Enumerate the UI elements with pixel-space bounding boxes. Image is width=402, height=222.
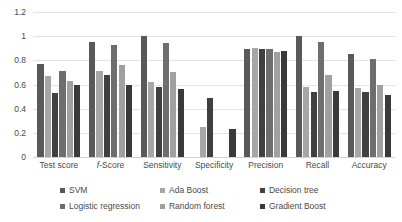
bar-group (240, 12, 292, 157)
bar (59, 71, 65, 157)
bar (281, 51, 287, 157)
bar-slot (178, 12, 184, 157)
bar-slot (45, 12, 51, 157)
bar-slot (311, 12, 317, 157)
bar (67, 81, 73, 157)
bar-slot (104, 12, 110, 157)
bar (111, 45, 117, 157)
x-axis-tick-label: f-Score (85, 159, 137, 173)
bar (296, 36, 302, 157)
bar-slot (377, 12, 383, 157)
bar (303, 87, 309, 157)
bar (348, 54, 354, 157)
x-axis-labels: Test scoref-ScoreSensitivitySpecificityP… (33, 159, 395, 173)
y-axis-tick-label: 0 (21, 153, 26, 162)
bar (259, 49, 265, 157)
bar-slot (370, 12, 376, 157)
bar (377, 85, 383, 158)
bar-slot (89, 12, 95, 157)
bar (52, 93, 58, 157)
y-axis-tick-label: 1 (21, 32, 26, 41)
y-axis-tick-label: 0.6 (14, 80, 26, 89)
bar-slot (252, 12, 258, 157)
bar-slot (52, 12, 58, 157)
x-axis-tick-label: Test score (33, 159, 85, 173)
bar-slot (111, 12, 117, 157)
bar-slot (192, 12, 198, 157)
y-axis-tick-label: 0.2 (14, 129, 26, 138)
legend-item[interactable]: Logistic regression (60, 198, 160, 214)
x-axis-tick-label: Specificity (188, 159, 240, 173)
bar-group (136, 12, 188, 157)
bar (89, 42, 95, 157)
bar-slot (348, 12, 354, 157)
bar (119, 65, 125, 157)
bar-slot (259, 12, 265, 157)
y-axis-tick-label: 0.4 (14, 104, 26, 113)
bar (370, 59, 376, 157)
bar (156, 87, 162, 157)
bar (37, 64, 43, 157)
legend-item[interactable]: Gradient Boost (260, 198, 360, 214)
bar (325, 75, 331, 157)
bar-slot (229, 12, 235, 157)
legend-label: SVM (69, 182, 87, 198)
bar (96, 71, 102, 157)
legend-label: Decision tree (269, 182, 319, 198)
legend-swatch-icon (260, 204, 265, 209)
bar-slot (281, 12, 287, 157)
bar (104, 75, 110, 157)
bar (200, 127, 206, 157)
bar-slot (207, 12, 213, 157)
bar (318, 42, 324, 157)
y-axis-tick-label: 1.2 (14, 8, 26, 17)
bar-slot (148, 12, 154, 157)
bar (126, 85, 132, 158)
bar-group (33, 12, 85, 157)
bar-slot (385, 12, 391, 157)
bar-slot (355, 12, 361, 157)
x-axis-tick-label: Recall (292, 159, 344, 173)
chart-legend: SVMAda BoostDecision treeLogistic regres… (60, 182, 360, 214)
legend-label: Logistic regression (69, 198, 140, 214)
bar-slot (333, 12, 339, 157)
bar (244, 49, 250, 157)
bar-groups (33, 12, 395, 157)
x-axis-tick-label: Sensitivity (136, 159, 188, 173)
legend-item[interactable]: SVM (60, 182, 160, 198)
bar-slot (156, 12, 162, 157)
bar (74, 85, 80, 158)
bar-slot (119, 12, 125, 157)
legend-item[interactable]: Ada Boost (160, 182, 260, 198)
bar-slot (303, 12, 309, 157)
x-axis-tick-label: Accuracy (343, 159, 395, 173)
bar-slot (67, 12, 73, 157)
bar (385, 95, 391, 157)
bar-group (343, 12, 395, 157)
bar-slot (362, 12, 368, 157)
bar (178, 89, 184, 157)
legend-label: Ada Boost (169, 182, 208, 198)
bar-slot (222, 12, 228, 157)
bar-slot (96, 12, 102, 157)
y-axis-labels: 00.20.40.60.811.2 (0, 12, 30, 157)
bar-slot (200, 12, 206, 157)
bar (45, 76, 51, 157)
bar-slot (59, 12, 65, 157)
bar-group (292, 12, 344, 157)
legend-item[interactable]: Decision tree (260, 182, 360, 198)
legend-item[interactable]: Random forest (160, 198, 260, 214)
bar-slot (74, 12, 80, 157)
bar-slot (244, 12, 250, 157)
bar (163, 43, 169, 157)
legend-swatch-icon (160, 188, 165, 193)
legend-swatch-icon (160, 204, 165, 209)
legend-swatch-icon (60, 188, 65, 193)
bar-slot (318, 12, 324, 157)
bar-slot (141, 12, 147, 157)
bar (266, 49, 272, 157)
legend-swatch-icon (260, 188, 265, 193)
bar-slot (163, 12, 169, 157)
legend-label: Gradient Boost (269, 198, 326, 214)
bar (252, 48, 258, 157)
